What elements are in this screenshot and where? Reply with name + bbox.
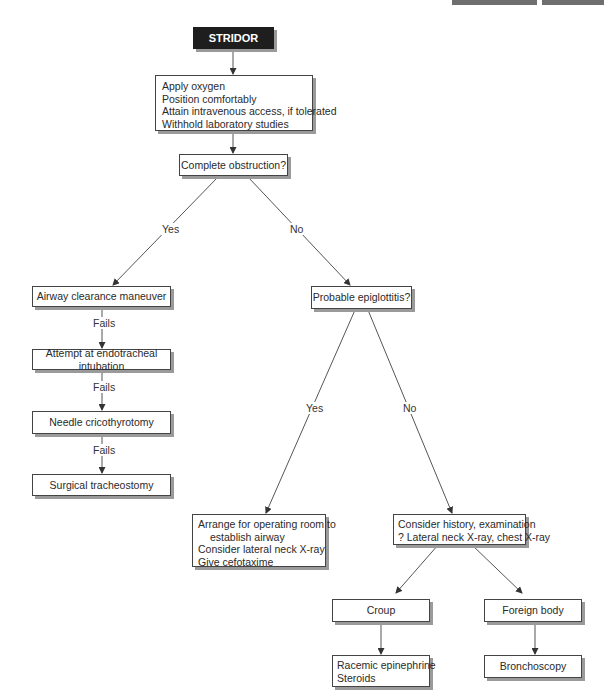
- epiglottitis-no-actions: Consider history, examination ? Lateral …: [393, 514, 526, 545]
- step-label: Airway clearance maneuver: [37, 290, 167, 303]
- step-line: Apply oxygen: [162, 80, 306, 93]
- decision-complete-obstruction: Complete obstruction?: [179, 154, 288, 176]
- q2-no-label: No: [402, 402, 417, 414]
- step-label: Needle cricothyrotomy: [49, 416, 153, 429]
- initial-steps-box: Apply oxygen Position comfortably Attain…: [155, 75, 313, 131]
- fails-label: Fails: [92, 317, 116, 329]
- decision-probable-epiglottitis: Probable epiglottitis?: [311, 286, 412, 309]
- step-surgical-tracheostomy: Surgical tracheostomy: [32, 474, 171, 496]
- diagnosis-croup: Croup: [332, 599, 430, 622]
- treatment-label: Bronchoscopy: [500, 660, 567, 673]
- q1-yes-label: Yes: [161, 223, 180, 235]
- step-line: Withhold laboratory studies: [162, 118, 306, 131]
- fails-label: Fails: [92, 381, 116, 393]
- decision-label: Complete obstruction?: [181, 159, 286, 172]
- step-endotracheal-intubation: Attempt at endotracheal intubation: [32, 349, 171, 370]
- diagnosis-foreign-body: Foreign body: [484, 599, 582, 622]
- croup-treatment: Racemic epinephrine Steroids: [332, 655, 430, 687]
- treatment-line: Racemic epinephrine: [337, 659, 425, 672]
- action-line: Consider lateral neck X-ray: [198, 543, 320, 556]
- action-line: Arrange for operating room to: [198, 518, 320, 531]
- step-label: Attempt at endotracheal intubation: [33, 347, 170, 372]
- start-label: STRIDOR: [209, 32, 259, 45]
- epiglottitis-yes-actions: Arrange for operating room to establish …: [192, 514, 326, 567]
- step-label: Surgical tracheostomy: [50, 479, 154, 492]
- action-line: ? Lateral neck X-ray, chest X-ray: [398, 531, 521, 544]
- treatment-line: Steroids: [337, 672, 425, 685]
- diagnosis-label: Croup: [367, 604, 396, 617]
- action-line: Consider history, examination: [398, 518, 521, 531]
- step-needle-cricothyrotomy: Needle cricothyrotomy: [32, 411, 171, 434]
- q2-yes-label: Yes: [305, 402, 324, 414]
- q1-no-label: No: [289, 223, 304, 235]
- action-line: establish airway: [198, 531, 320, 544]
- step-line: Position comfortably: [162, 93, 306, 106]
- decision-label: Probable epiglottitis?: [313, 291, 410, 304]
- foreign-body-treatment: Bronchoscopy: [484, 655, 582, 678]
- step-line: Attain intravenous access, if tolerated: [162, 105, 306, 118]
- step-airway-clearance: Airway clearance maneuver: [32, 286, 171, 307]
- diagnosis-label: Foreign body: [502, 604, 563, 617]
- action-line: Give cefotaxime: [198, 556, 320, 569]
- start-node-stridor: STRIDOR: [193, 27, 274, 49]
- fails-label: Fails: [92, 444, 116, 456]
